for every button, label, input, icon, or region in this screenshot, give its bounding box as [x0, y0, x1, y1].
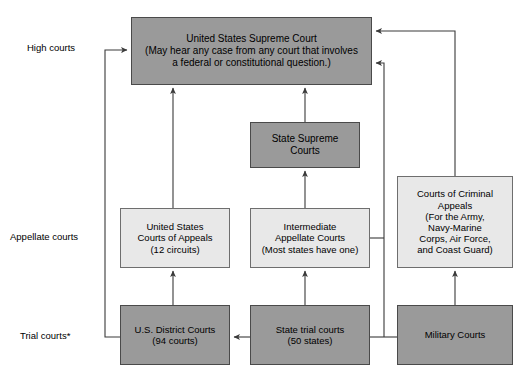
tier-label-appellate-courts: Appellate courts [10, 231, 78, 242]
node-label-state-supreme-courts: State Supreme Courts [269, 133, 342, 157]
tier-label-trial-courts: Trial courts* [20, 330, 70, 341]
node-state-trial-courts[interactable]: State trial courts (50 states) [250, 305, 370, 365]
node-military-courts[interactable]: Military Courts [397, 305, 513, 365]
node-courts-of-criminal-appeals[interactable]: Courts of Criminal Appeals (For the Army… [397, 176, 513, 268]
edge-criminal-appeals-to-supreme [376, 31, 455, 176]
node-united-states-courts-of-appeals[interactable]: United States Courts of Appeals (12 circ… [120, 208, 230, 268]
edge-district-side-riser-to-supreme [105, 50, 127, 337]
node-label-united-states-supreme-court: United States Supreme Court (May hear an… [142, 33, 361, 68]
edge-state-side-riser-to-supreme [376, 63, 384, 337]
tier-label-high-courts: High courts [27, 42, 75, 53]
node-label-courts-of-criminal-appeals: Courts of Criminal Appeals (For the Army… [414, 188, 496, 255]
node-intermediate-appellate-courts[interactable]: Intermediate Appellate Courts (Most stat… [250, 208, 370, 268]
node-label-united-states-courts-of-appeals: United States Courts of Appeals (12 circ… [135, 221, 216, 255]
node-state-supreme-courts[interactable]: State Supreme Courts [250, 122, 360, 168]
node-label-intermediate-appellate-courts: Intermediate Appellate Courts (Most stat… [259, 221, 362, 255]
node-label-us-district-courts: U.S. District Courts (94 courts) [132, 324, 219, 346]
node-label-military-courts: Military Courts [422, 329, 489, 340]
node-label-state-trial-courts: State trial courts (50 states) [273, 324, 348, 346]
node-united-states-supreme-court[interactable]: United States Supreme Court (May hear an… [131, 17, 372, 85]
court-system-diagram: High courts Appellate courts Trial court… [0, 0, 531, 381]
node-us-district-courts[interactable]: U.S. District Courts (94 courts) [120, 305, 230, 365]
